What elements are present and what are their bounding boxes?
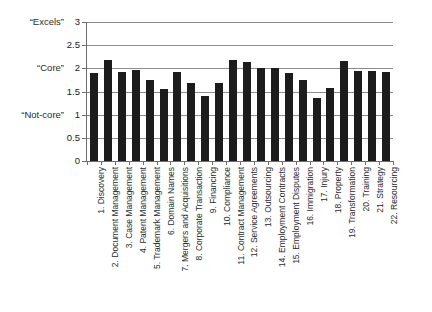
- x-axis-tick: [226, 161, 227, 165]
- x-axis-category-label: 20. Training: [362, 167, 371, 211]
- x-axis-category-label: 5. Trademark Management: [153, 167, 162, 269]
- bar: [201, 96, 209, 161]
- bar: [326, 88, 334, 161]
- bar: [187, 83, 195, 161]
- x-axis-tick: [351, 161, 352, 165]
- x-axis-tick: [393, 161, 394, 165]
- bar: [160, 89, 168, 161]
- y-axis-tick-label: 1: [75, 110, 80, 120]
- x-axis-tick: [240, 161, 241, 165]
- x-axis-tick: [212, 161, 213, 165]
- y-axis-tick: [82, 138, 87, 139]
- x-axis-tick: [379, 161, 380, 165]
- y-axis-tick: [82, 22, 87, 23]
- y-axis-tick: [82, 115, 87, 116]
- x-axis-category-label: 21. Strategy: [376, 167, 385, 213]
- y-axis-tick-label: 1.5: [67, 87, 80, 97]
- bar: [146, 80, 154, 161]
- x-axis-category-label: 14. Employment Contracts: [278, 167, 287, 267]
- x-axis-tick: [170, 161, 171, 165]
- bar: [118, 72, 126, 161]
- x-axis-category-label: 6. Domain Names: [167, 167, 176, 235]
- x-axis-tick: [310, 161, 311, 165]
- x-axis-category-label: 7. Mergers and Acquisitions: [181, 167, 190, 271]
- y-axis-tick: [82, 68, 87, 69]
- bar: [173, 72, 181, 161]
- x-axis-category-label: 18. Property: [334, 167, 343, 213]
- x-axis-category-label: 19. Transformation: [348, 167, 357, 238]
- bar: [354, 71, 362, 161]
- x-axis-category-label: 12. Service Agreements: [250, 167, 259, 257]
- x-axis-category-label: 11. Contract Management: [237, 167, 246, 265]
- x-axis-tick: [337, 161, 338, 165]
- bar: [257, 68, 265, 161]
- y-axis-tick: [82, 45, 87, 46]
- gridline: [87, 45, 393, 46]
- bar: [313, 98, 321, 161]
- x-axis-tick: [268, 161, 269, 165]
- x-axis-category-label: 17. Injury: [320, 167, 329, 202]
- x-axis-category-label: 10. Compliance: [223, 167, 232, 226]
- bar: [132, 70, 140, 161]
- bar-chart: “Excels”“Core”“Not-core” 32.521.510.50 1…: [0, 0, 432, 312]
- y-axis-tick-label: 2: [75, 63, 80, 73]
- x-axis-tick: [157, 161, 158, 165]
- bar: [382, 72, 390, 161]
- x-axis-category-label: 3. Case Management: [125, 167, 134, 248]
- bar: [299, 80, 307, 161]
- x-axis-tick: [282, 161, 283, 165]
- x-axis-tick: [184, 161, 185, 165]
- plot-area: [87, 22, 393, 161]
- bar: [229, 60, 237, 161]
- bar: [215, 83, 223, 161]
- x-axis-tick: [296, 161, 297, 165]
- x-axis-tick: [143, 161, 144, 165]
- y-axis-tick-label: 0: [75, 156, 80, 166]
- x-axis-category-label: 13. Outsourcing: [264, 167, 273, 227]
- x-axis-tick: [198, 161, 199, 165]
- x-axis-tick: [101, 161, 102, 165]
- x-axis-category-label: 8. Corporate Transaction: [195, 167, 204, 261]
- x-axis-category-label: 2. Document Management: [111, 167, 120, 267]
- y-axis-tick-label: 0.5: [67, 133, 80, 143]
- y-axis-tick-label: 3: [75, 17, 80, 27]
- bar: [285, 73, 293, 161]
- y-axis-tick-label: 2.5: [67, 40, 80, 50]
- y-axis-tick-labels: 32.521.510.50: [40, 0, 80, 180]
- x-axis-category-label: 9. Financing: [209, 167, 218, 213]
- bar: [271, 68, 279, 161]
- x-axis-category-label: 16. Immigration: [306, 167, 315, 226]
- x-axis-category-label: 15. Employment Disputes: [292, 167, 301, 264]
- bar: [104, 60, 112, 161]
- x-axis-tick: [129, 161, 130, 165]
- x-axis-tick: [365, 161, 366, 165]
- bar: [340, 61, 348, 161]
- x-axis-tick: [115, 161, 116, 165]
- bar: [90, 73, 98, 161]
- gridline: [87, 22, 393, 23]
- x-axis-category-label: 4. Patent Management: [139, 167, 148, 253]
- y-axis-tick: [82, 92, 87, 93]
- bar: [243, 62, 251, 161]
- x-axis-tick: [254, 161, 255, 165]
- x-axis-tick: [87, 161, 88, 165]
- x-axis-tick: [323, 161, 324, 165]
- x-axis-category-label: 22. Resourcing: [390, 167, 399, 224]
- bar: [368, 71, 376, 161]
- x-axis-category-label: 1. Discovery: [97, 167, 106, 214]
